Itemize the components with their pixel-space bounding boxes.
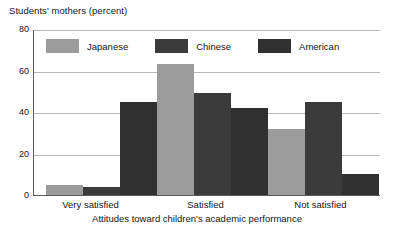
- x-tick-label-not-satisfied: Not satisfied: [263, 199, 378, 210]
- legend-label-japanese: Japanese: [87, 41, 128, 52]
- bar-very-satisfied-japanese: [46, 185, 83, 195]
- y-tick-label-40: 40: [5, 108, 29, 117]
- bar-very-satisfied-chinese: [83, 187, 120, 195]
- x-tick-label-very-satisfied: Very satisfied: [33, 199, 148, 210]
- x-axis-title: Attitudes toward children's academic per…: [0, 213, 394, 224]
- y-tick-label-60: 60: [5, 67, 29, 76]
- bar-not-satisfied-chinese: [305, 102, 342, 195]
- y-tick-label-0: 0: [5, 191, 29, 200]
- legend-item-japanese: Japanese: [46, 39, 128, 53]
- legend-swatch-icon-japanese: [46, 39, 79, 53]
- gridline-80: [34, 30, 380, 31]
- legend-swatch-icon-american: [258, 39, 291, 53]
- bar-satisfied-japanese: [157, 64, 194, 195]
- bar-satisfied-american: [231, 108, 268, 195]
- legend-label-american: American: [299, 41, 339, 52]
- bar-not-satisfied-american: [342, 174, 379, 195]
- y-tick-label-20: 20: [5, 150, 29, 159]
- legend-swatch-icon-chinese: [155, 39, 188, 53]
- bar-very-satisfied-american: [120, 102, 157, 195]
- bar-chart-figure: Students' mothers (percent) 80 60 40 20 …: [0, 0, 394, 244]
- gridline-60: [34, 72, 380, 73]
- legend-item-chinese: Chinese: [155, 39, 231, 53]
- chart-title: Students' mothers (percent): [9, 5, 127, 17]
- legend-label-chinese: Chinese: [196, 41, 231, 52]
- plot-area: [33, 30, 380, 196]
- legend-item-american: American: [258, 39, 339, 53]
- y-tick-label-80: 80: [5, 25, 29, 34]
- y-axis: 80 60 40 20 0: [0, 30, 29, 196]
- bar-not-satisfied-japanese: [268, 129, 305, 195]
- chart-legend: Japanese Chinese American: [46, 38, 339, 54]
- bar-satisfied-chinese: [194, 93, 231, 195]
- x-tick-label-satisfied: Satisfied: [148, 199, 263, 210]
